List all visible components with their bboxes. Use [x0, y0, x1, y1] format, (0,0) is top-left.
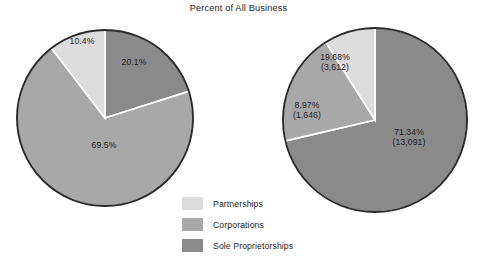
chart-legend: Partnerships Corporations Sole Proprieto… [182, 193, 357, 256]
legend-item-partnerships: Partnerships [182, 193, 357, 214]
legend-item-sole-proprietorships: Sole Proprietorships [182, 235, 357, 256]
pie-chart-figure: Percent of All Business 10.4% 20.1% 69.5… [0, 0, 477, 267]
right-pie-label-partnerships: 8.97% (1,646) [278, 100, 336, 121]
legend-label-corporations: Corporations [213, 220, 264, 230]
legend-swatch-partnerships [182, 197, 203, 210]
legend-label-sole-proprietorships: Sole Proprietorships [213, 241, 293, 251]
legend-label-partnerships: Partnerships [213, 199, 263, 209]
right-pie-label-corporations: 19.68% (3,612) [304, 52, 366, 73]
legend-swatch-sole-proprietorships [182, 239, 203, 252]
legend-item-corporations: Corporations [182, 214, 357, 235]
right-pie-label-sole-proprietorships: 71.34% (13,091) [375, 127, 443, 148]
legend-swatch-corporations [182, 218, 203, 231]
